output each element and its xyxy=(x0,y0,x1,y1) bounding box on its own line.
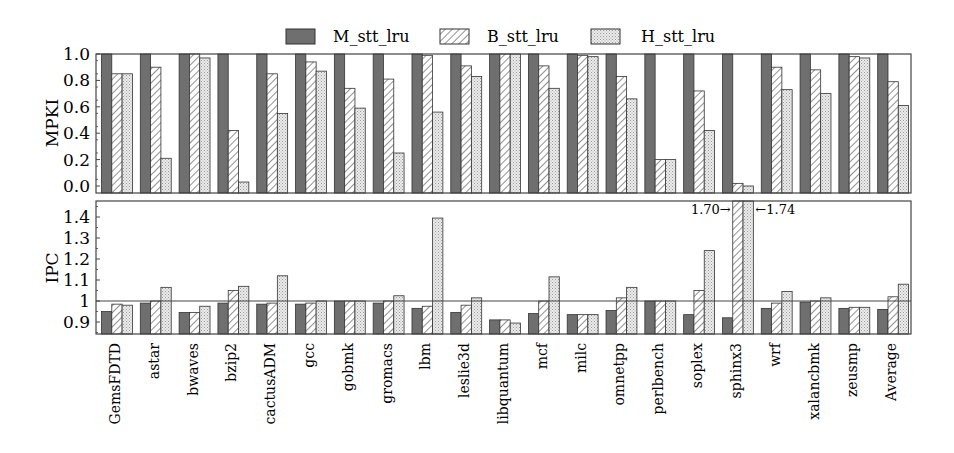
mpki-bar xyxy=(102,54,112,193)
ipc-bar xyxy=(722,318,732,334)
mpki-bar xyxy=(888,82,898,193)
x-tick-label: Average xyxy=(883,343,899,402)
mpki-bar xyxy=(218,54,228,193)
mpki-bar xyxy=(451,54,461,193)
ipc-bar xyxy=(151,301,161,334)
ipc-y-tick-label: 1.1 xyxy=(63,270,90,290)
mpki-bar xyxy=(316,71,326,193)
ipc-bar xyxy=(800,302,810,334)
ipc-bar xyxy=(567,315,577,334)
mpki-bar xyxy=(800,54,810,193)
ipc-bar xyxy=(694,291,704,335)
ipc-bar xyxy=(161,287,171,334)
mpki-bar xyxy=(412,54,422,193)
legend-swatch-h xyxy=(591,29,620,44)
ipc-bar xyxy=(859,307,869,334)
annotation-b-value: 1.70→ xyxy=(691,202,731,217)
mpki-bar xyxy=(722,54,732,193)
ipc-bar xyxy=(355,301,365,334)
mpki-bar xyxy=(733,183,743,193)
ipc-bar xyxy=(528,314,538,334)
ipc-bar xyxy=(761,308,771,334)
ipc-bar xyxy=(179,313,189,334)
ipc-bar xyxy=(122,305,132,334)
mpki-bar xyxy=(471,76,481,193)
legend: M_stt_lru B_stt_lru H_stt_lru xyxy=(286,27,715,46)
mpki-y-tick-label: 0.4 xyxy=(63,123,90,143)
ipc-bar xyxy=(821,298,831,334)
mpki-bar xyxy=(743,186,753,193)
legend-item-m: M_stt_lru xyxy=(286,27,410,46)
mpki-bar xyxy=(588,57,598,193)
ipc-bar xyxy=(733,201,743,334)
ipc-bar xyxy=(839,308,849,334)
ipc-bar xyxy=(373,303,383,334)
mpki-bar xyxy=(422,55,432,193)
ipc-bar xyxy=(627,287,637,334)
mpki-bar xyxy=(257,54,267,193)
ipc-y-axis: 0.911.11.21.31.4 xyxy=(63,207,100,333)
x-tick-label: leslie3d xyxy=(456,343,472,398)
ipc-bar xyxy=(267,303,277,334)
ipc-bar xyxy=(500,320,510,334)
mpki-bar xyxy=(782,90,792,193)
mpki-panel: 0.00.20.40.60.81.0 MPKI xyxy=(42,44,911,196)
ipc-bar xyxy=(102,312,112,335)
ipc-bar xyxy=(655,301,665,334)
mpki-bar xyxy=(296,54,306,193)
ipc-bar xyxy=(645,301,655,334)
mpki-y-tick-label: 0.6 xyxy=(63,97,90,117)
mpki-bar xyxy=(112,74,122,193)
mpki-bar xyxy=(334,54,344,193)
x-tick-label: cactusADM xyxy=(262,343,278,425)
ipc-bar xyxy=(345,301,355,334)
x-axis-labels: GemsFDTDastarbwavesbzip2cactusADMgccgobm… xyxy=(107,341,899,424)
mpki-bar xyxy=(461,66,471,193)
mpki-axis-label: MPKI xyxy=(42,99,62,147)
ipc-bar xyxy=(684,315,694,334)
mpki-bar xyxy=(849,57,859,193)
x-tick-label: gromacs xyxy=(379,343,395,404)
x-tick-label: astar xyxy=(146,343,162,380)
ipc-bar xyxy=(433,218,443,334)
mpki-bar xyxy=(684,54,694,193)
annotation-h-value: ←1.74 xyxy=(755,202,795,217)
mpki-bar xyxy=(200,58,210,193)
ipc-y-tick-label: 1.2 xyxy=(63,249,90,269)
mpki-bar xyxy=(151,67,161,193)
mpki-bar xyxy=(500,54,510,193)
mpki-bar xyxy=(821,94,831,193)
ipc-bar xyxy=(616,298,626,334)
x-tick-label: milc xyxy=(573,343,589,373)
mpki-bar xyxy=(606,54,616,193)
legend-swatch-b xyxy=(440,29,469,44)
x-tick-label: zeusmp xyxy=(844,343,860,397)
mpki-bar xyxy=(616,76,626,193)
mpki-y-tick-label: 0.2 xyxy=(63,150,90,170)
ipc-y-tick-label: 1.3 xyxy=(63,228,90,248)
mpki-bar xyxy=(539,66,549,193)
x-tick-label: gcc xyxy=(301,343,317,368)
mpki-bar xyxy=(665,160,675,193)
mpki-bar xyxy=(394,153,404,193)
mpki-bar xyxy=(140,54,150,193)
mpki-bar xyxy=(549,88,559,193)
ipc-bar xyxy=(743,201,753,334)
ipc-bar xyxy=(422,306,432,334)
mpki-bar xyxy=(161,158,171,193)
mpki-bar xyxy=(239,182,249,193)
x-tick-label: wrf xyxy=(767,341,783,367)
ipc-bar xyxy=(461,305,471,334)
mpki-bar xyxy=(878,54,888,193)
ipc-bar xyxy=(810,301,820,334)
mpki-bar xyxy=(839,54,849,193)
ipc-bar xyxy=(316,301,326,334)
ipc-y-tick-label: 1.4 xyxy=(63,207,90,227)
ipc-bar xyxy=(665,301,675,334)
ipc-bar xyxy=(704,251,714,334)
ipc-bar xyxy=(898,284,908,334)
mpki-bar xyxy=(122,74,132,193)
legend-label-m: M_stt_lru xyxy=(333,27,410,46)
mpki-bar xyxy=(694,91,704,193)
mpki-bar xyxy=(179,54,189,193)
